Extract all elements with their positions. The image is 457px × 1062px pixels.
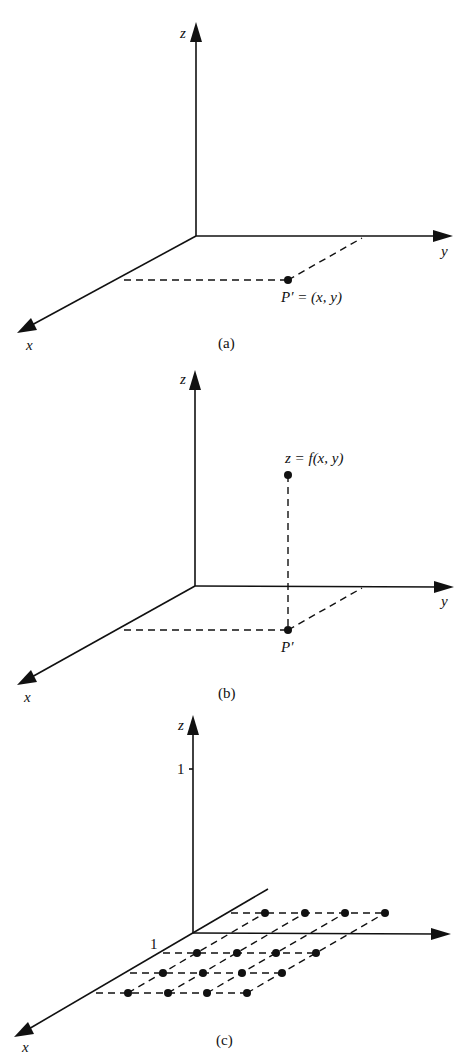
- y-arrowhead-icon: [431, 928, 451, 940]
- panel-c: z 1 1 x (c): [14, 715, 451, 1055]
- figure-canvas: z y x P′ = (x, y) (a) z y x z = f(x, y) …: [0, 0, 457, 1062]
- x-axis: [30, 236, 196, 326]
- grid-point: [272, 949, 280, 957]
- grid-point: [243, 989, 251, 997]
- projection-line-y: [288, 238, 362, 280]
- grid-point: [164, 989, 172, 997]
- caption-a: (a): [218, 335, 235, 352]
- y-axis: [195, 586, 441, 587]
- y-axis-label: y: [439, 243, 448, 259]
- grid-point: [381, 909, 389, 917]
- projection-line-y: [288, 588, 362, 630]
- grid-point: [301, 909, 309, 917]
- surface-point: [284, 471, 292, 479]
- x-axis-label: x: [21, 1039, 29, 1055]
- grid-point: [341, 909, 349, 917]
- z-axis-label: z: [177, 717, 184, 733]
- point-label: P′ = (x, y): [280, 289, 342, 306]
- z-arrowhead-icon: [187, 715, 199, 735]
- grid-point: [278, 969, 286, 977]
- x-arrowhead-icon: [17, 670, 37, 685]
- z-axis-label: z: [179, 371, 186, 387]
- z-tick-label: 1: [177, 761, 185, 777]
- y-axis-label: y: [439, 593, 448, 609]
- grid-point: [159, 969, 167, 977]
- grid-point: [261, 909, 269, 917]
- x-arrowhead-icon: [17, 318, 37, 333]
- surface-point-label: z = f(x, y): [284, 450, 343, 467]
- x-axis-label: x: [25, 337, 33, 353]
- grid-point: [312, 949, 320, 957]
- x-axis-label: x: [23, 689, 31, 705]
- y-arrowhead-icon: [433, 230, 453, 242]
- grid-point: [233, 949, 241, 957]
- y-arrowhead-icon: [434, 581, 454, 593]
- y-axis: [193, 933, 437, 934]
- panel-a: z y x P′ = (x, y) (a): [17, 22, 453, 353]
- point-p-prime: [284, 276, 292, 284]
- x-tick-label: 1: [150, 936, 158, 952]
- grid-point: [238, 969, 246, 977]
- x-arrowhead-icon: [14, 1022, 34, 1037]
- grid-point: [199, 969, 207, 977]
- point-p-prime: [284, 626, 292, 634]
- z-arrowhead-icon: [189, 370, 201, 390]
- x-axis: [27, 889, 268, 1030]
- grid-point: [203, 989, 211, 997]
- base-point-label: P′: [280, 639, 294, 655]
- z-arrowhead-icon: [190, 22, 202, 42]
- x-axis: [30, 586, 195, 678]
- grid-point: [124, 989, 132, 997]
- caption-b: (b): [218, 685, 236, 702]
- caption-c: (c): [216, 1032, 233, 1049]
- grid-point: [193, 949, 201, 957]
- panel-b: z y x z = f(x, y) P′ (b): [17, 370, 454, 705]
- z-axis-label: z: [179, 25, 186, 41]
